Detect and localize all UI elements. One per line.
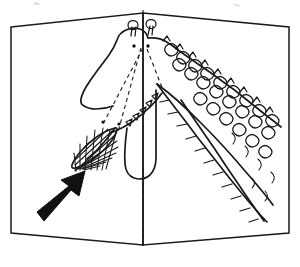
back-ridge-spikes xyxy=(163,36,273,112)
diagram-canvas: Origami dragon head fold step folded squ… xyxy=(0,0,300,267)
dragon-body xyxy=(148,36,281,222)
teeth xyxy=(126,93,158,126)
tail-scale-flecks xyxy=(232,133,274,201)
head-fold-lines xyxy=(103,48,163,132)
scan-smudge xyxy=(33,2,241,6)
dragon-head xyxy=(81,20,163,133)
tongue-hatched xyxy=(72,128,118,171)
eye-stalks xyxy=(128,20,156,37)
eyes xyxy=(132,44,149,47)
origami-dragon-diagram xyxy=(0,0,300,267)
pointer-arrow xyxy=(37,171,85,221)
